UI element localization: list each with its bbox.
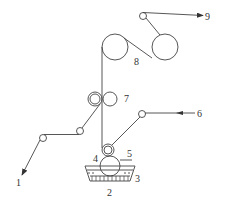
top-guide-roller: [140, 13, 147, 20]
guide-roller-c: [139, 111, 146, 118]
nip-roller-plain: [103, 92, 117, 106]
label-5: 5: [127, 148, 132, 159]
diagram-canvas: 1 2 3 4 5 6 7 8 9: [0, 0, 228, 209]
label-2: 2: [107, 187, 112, 198]
guide-roller-b: [40, 135, 47, 142]
web-segment: [82, 104, 100, 128]
nip-roller-inner: [90, 94, 100, 104]
label-4: 4: [93, 153, 98, 164]
label-3: 3: [135, 173, 140, 184]
label-1: 1: [16, 177, 21, 188]
label-8: 8: [134, 56, 139, 67]
process-diagram: 1 2 3 4 5 6 7 8 9: [0, 0, 228, 209]
web-out-line: [143, 13, 203, 16]
label-6: 6: [197, 108, 202, 119]
roller-5-inner: [104, 146, 112, 154]
label-9: 9: [205, 11, 210, 22]
web-segment: [146, 18, 160, 35]
label-7: 7: [124, 93, 129, 104]
web-segment: [112, 117, 140, 145]
web-in-line: [22, 140, 40, 175]
coating-tank: [85, 166, 135, 181]
guide-roller-a: [77, 128, 84, 135]
drying-roller-right: [152, 34, 178, 60]
